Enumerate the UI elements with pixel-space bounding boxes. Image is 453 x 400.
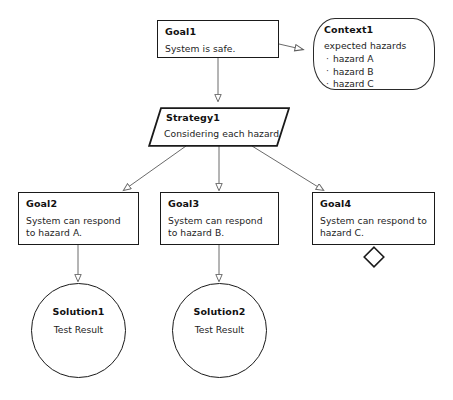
node-strategy1-title: Strategy1 <box>166 112 284 124</box>
node-context1[interactable]: Context1 expected hazards hazard A hazar… <box>313 18 435 90</box>
node-goal1[interactable]: Goal1 System is safe. <box>157 20 279 58</box>
node-goal2-body: System can respond to hazard A. <box>26 215 132 239</box>
context1-hazard-item: hazard B <box>324 66 428 79</box>
node-goal4[interactable]: Goal4 System can respond to hazard C. <box>312 192 435 245</box>
node-solution1-body: Test Result <box>32 324 125 335</box>
node-goal2[interactable]: Goal2 System can respond to hazard A. <box>18 192 139 245</box>
gsn-diagram-canvas: Goal1 System is safe. Context1 expected … <box>0 0 453 400</box>
node-goal3-body: System can respond to hazard B. <box>168 215 272 239</box>
node-goal2-title: Goal2 <box>26 198 132 210</box>
node-strategy1[interactable]: Strategy1 Considering each hazard <box>148 107 290 147</box>
edge-strategy1-goal4 <box>252 146 323 190</box>
node-goal4-title: Goal4 <box>320 198 428 210</box>
undeveloped-diamond-icon <box>362 245 386 269</box>
node-goal1-title: Goal1 <box>165 26 272 38</box>
node-solution1[interactable]: Solution1 Test Result <box>31 283 126 378</box>
node-goal3[interactable]: Goal3 System can respond to hazard B. <box>160 192 279 245</box>
node-goal3-inner: Goal3 System can respond to hazard B. <box>161 193 278 244</box>
edge-strategy1-goal2 <box>124 146 186 190</box>
node-goal3-title: Goal3 <box>168 198 272 210</box>
node-solution1-inner: Solution1 Test Result <box>32 284 125 377</box>
node-strategy1-body: Considering each hazard <box>164 128 284 140</box>
node-goal4-body: System can respond to hazard C. <box>320 215 428 239</box>
edge-goal1-context1 <box>279 44 303 50</box>
node-context1-inner: Context1 expected hazards hazard A hazar… <box>314 19 434 89</box>
node-goal1-inner: Goal1 System is safe. <box>158 21 278 57</box>
node-goal2-inner: Goal2 System can respond to hazard A. <box>19 193 138 244</box>
context1-hazard-item: hazard C <box>324 78 428 91</box>
node-goal4-inner: Goal4 System can respond to hazard C. <box>313 193 434 244</box>
undeveloped-diamond-shape <box>362 245 386 269</box>
node-context1-body: expected hazards <box>324 40 428 52</box>
node-solution2-inner: Solution2 Test Result <box>173 284 266 377</box>
node-solution1-title: Solution1 <box>32 306 125 317</box>
context1-hazard-item: hazard A <box>324 53 428 66</box>
node-strategy1-inner: Strategy1 Considering each hazard <box>148 107 290 147</box>
node-solution2[interactable]: Solution2 Test Result <box>172 283 267 378</box>
node-solution2-title: Solution2 <box>173 306 266 317</box>
node-goal1-body: System is safe. <box>165 43 272 55</box>
node-context1-title: Context1 <box>324 24 428 36</box>
context1-hazard-list: hazard A hazard B hazard C <box>324 53 428 91</box>
node-solution2-body: Test Result <box>173 324 266 335</box>
